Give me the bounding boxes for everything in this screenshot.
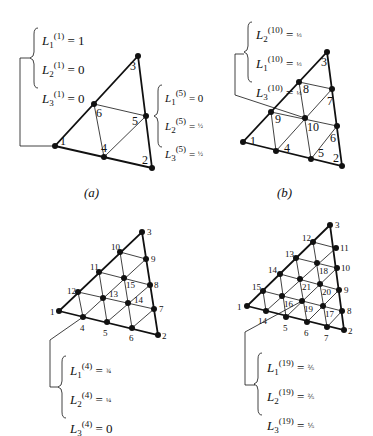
node-label: 7 bbox=[159, 304, 164, 314]
node-label: 6 bbox=[304, 328, 309, 338]
node-label: 6 bbox=[96, 106, 102, 120]
node-label: 4 bbox=[101, 141, 107, 155]
node-label: 7 bbox=[327, 94, 333, 108]
node-label: 5 bbox=[283, 323, 288, 333]
node-label: 1 bbox=[237, 302, 242, 312]
equation-row: L1(1) = 1 bbox=[42, 26, 85, 55]
node-label: 15 bbox=[126, 280, 136, 290]
equation-row: L2(10) = ⅓ bbox=[256, 20, 302, 49]
equation-row: L3(5) = ½ bbox=[165, 140, 203, 168]
node-label: 11 bbox=[340, 243, 349, 253]
node-label: 2 bbox=[348, 326, 353, 336]
node-label: 5 bbox=[318, 146, 324, 160]
node-label: 3 bbox=[130, 59, 136, 73]
node-label: 2 bbox=[162, 331, 167, 341]
node-label: 8 bbox=[303, 82, 309, 96]
equation-row: L2(1) = 0 bbox=[42, 55, 85, 84]
node-label: 4 bbox=[80, 323, 85, 333]
node-label: 17 bbox=[325, 309, 335, 319]
equation-row: L1(4) = ¾ bbox=[70, 356, 113, 385]
node-label: 5 bbox=[132, 114, 138, 128]
node-label: 14 bbox=[258, 316, 268, 326]
equation-row: L1(10) = ⅓ bbox=[256, 49, 302, 78]
node-label: 12 bbox=[302, 233, 311, 243]
node-label: 4 bbox=[284, 141, 290, 155]
node-label: 21 bbox=[302, 282, 311, 292]
node-label: 3 bbox=[321, 55, 327, 69]
figure-b-caption: (b) bbox=[277, 185, 292, 201]
figure-c-equations-bottom: L1(4) = ¾ L2(4) = ¼ L3(4) = 0 bbox=[70, 356, 113, 436]
node-label: 7 bbox=[324, 333, 329, 343]
node-label: 13 bbox=[109, 289, 119, 299]
node-label: 5 bbox=[103, 328, 108, 338]
node-label: 9 bbox=[151, 254, 156, 264]
node-label: 8 bbox=[347, 306, 352, 316]
equation-row: L1(5) = 0 bbox=[165, 84, 203, 112]
node-label: 19 bbox=[304, 304, 314, 314]
node-label: 10 bbox=[307, 120, 319, 134]
node-label: 3 bbox=[147, 227, 152, 237]
figure-a-equations-top: L1(1) = 1 L2(1) = 0 L3(1) = 0 bbox=[42, 26, 85, 113]
node-label: 1 bbox=[50, 307, 55, 317]
node-label: 10 bbox=[341, 263, 351, 273]
node-label: 9 bbox=[344, 285, 349, 295]
node-label: 12 bbox=[67, 286, 76, 296]
node-label: 10 bbox=[111, 242, 121, 252]
node-label: 6 bbox=[330, 131, 336, 145]
equation-row: L1(19) = ⅖ bbox=[267, 353, 314, 382]
node-label: 14 bbox=[268, 265, 278, 275]
node-label: 15 bbox=[252, 282, 262, 292]
node-label: 8 bbox=[154, 280, 159, 290]
figure-b-equations-top: L2(10) = ⅓ L1(10) = ⅓ L3(10) = ⅓ bbox=[256, 20, 302, 107]
node-label: 18 bbox=[319, 266, 329, 276]
node-label: 1 bbox=[60, 134, 66, 148]
equation-row: L2(4) = ¼ bbox=[70, 385, 113, 414]
figure-a-caption: (a) bbox=[84, 185, 99, 201]
figure-a-equations-side: L1(5) = 0 L2(5) = ½ L3(5) = ½ bbox=[165, 84, 203, 168]
node-label: 16 bbox=[284, 299, 294, 309]
equation-row: L3(4) = 0 bbox=[70, 414, 113, 436]
node-label: 3 bbox=[335, 220, 340, 230]
figure-d-equations-bottom: L1(19) = ⅖ L2(19) = ⅖ L3(19) = ⅕ bbox=[267, 353, 314, 436]
node-label: 6 bbox=[129, 333, 134, 343]
node-label: 20 bbox=[322, 287, 332, 297]
equation-row: L3(10) = ⅓ bbox=[256, 78, 302, 107]
node-label: 1 bbox=[250, 134, 256, 148]
node-label: 2 bbox=[333, 151, 339, 165]
equation-row: L3(19) = ⅕ bbox=[267, 411, 314, 436]
node-label: 2 bbox=[142, 153, 148, 167]
equation-row: L3(1) = 0 bbox=[42, 84, 85, 113]
node-label: 9 bbox=[275, 112, 281, 126]
node-label: 13 bbox=[285, 249, 295, 259]
node-label: 14 bbox=[134, 295, 144, 305]
node-label: 11 bbox=[90, 262, 99, 272]
equation-row: L2(5) = ½ bbox=[165, 112, 203, 140]
equation-row: L2(19) = ⅖ bbox=[267, 382, 314, 411]
